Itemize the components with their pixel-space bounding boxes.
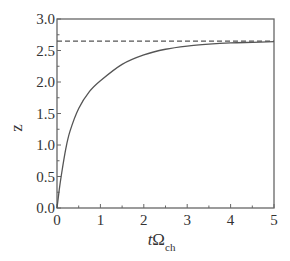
y-tick-label: 1.5 — [36, 106, 55, 122]
axis-ticks — [57, 19, 274, 208]
x-tick-label: 3 — [183, 212, 191, 228]
y-tick-label: 2.0 — [36, 74, 55, 90]
data-series — [57, 41, 274, 208]
x-tick-label: 2 — [140, 212, 148, 228]
y-tick-label: 2.5 — [36, 43, 55, 59]
y-axis-label: z — [7, 124, 26, 132]
x-axis-label: tΩ — [148, 230, 165, 249]
x-axis-label-subscript: ch — [165, 241, 176, 253]
x-tick-label: 4 — [227, 212, 235, 228]
x-tick-label: 5 — [270, 212, 278, 228]
x-tick-label: 0 — [53, 212, 61, 228]
y-tick-label: 3.0 — [36, 11, 55, 27]
line-chart: 0.00.51.01.52.02.53.0 012345 z tΩ ch — [0, 0, 290, 261]
plot-area-border — [57, 19, 274, 208]
y-tick-label: 0.0 — [36, 200, 55, 216]
y-tick-labels: 0.00.51.01.52.02.53.0 — [36, 11, 55, 216]
y-tick-label: 0.5 — [36, 169, 55, 185]
x-tick-labels: 012345 — [53, 212, 278, 228]
y-tick-label: 1.0 — [36, 137, 55, 153]
x-tick-label: 1 — [97, 212, 105, 228]
plot-frame — [57, 19, 274, 208]
z-curve-line — [57, 42, 274, 208]
